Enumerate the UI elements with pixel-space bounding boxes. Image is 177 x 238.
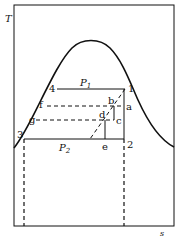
point-a-label: a <box>126 101 132 112</box>
point-d-label: d <box>99 109 106 120</box>
point-2-label: 2 <box>127 139 133 150</box>
point-f-label: f <box>39 99 44 110</box>
point-4-label: 4 <box>49 83 55 94</box>
x-axis-label: s <box>160 229 164 238</box>
y-axis-label: T <box>5 13 13 24</box>
p2-label: P2 <box>58 142 71 155</box>
point-1-label: 1 <box>128 83 134 94</box>
ts-diagram: T s P1 P2 4 1 3 2 f g b a d c e <box>0 0 177 238</box>
saturation-dome-curve <box>14 41 174 149</box>
plot-frame <box>14 5 174 226</box>
point-3-label: 3 <box>17 129 23 140</box>
point-e-label: e <box>102 141 108 152</box>
point-c-label: c <box>116 115 122 126</box>
point-b-label: b <box>108 95 114 106</box>
p1-label: P1 <box>79 77 91 90</box>
point-g-label: g <box>29 114 36 125</box>
